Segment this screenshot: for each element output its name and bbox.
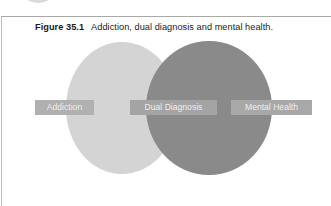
label-dual-diagnosis: Dual Diagnosis <box>130 100 217 115</box>
figure-number: Figure 35.1 <box>35 22 84 32</box>
figure-caption-text: Addiction, dual diagnosis and mental hea… <box>91 22 273 32</box>
label-addiction: Addiction <box>35 100 94 115</box>
figure-caption: Figure 35.1Addiction, dual diagnosis and… <box>35 22 273 32</box>
label-mental-health: Mental Health <box>231 100 312 115</box>
partial-decorative-shape <box>18 0 58 3</box>
